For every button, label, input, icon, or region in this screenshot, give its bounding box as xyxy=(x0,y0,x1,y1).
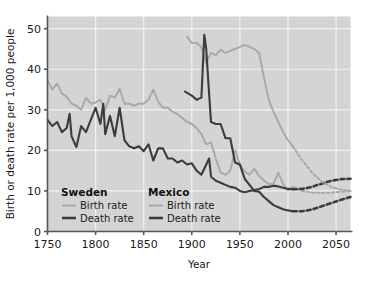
y-tick-label: 20 xyxy=(27,144,41,157)
y-tick-label: 30 xyxy=(27,104,41,117)
x-tick-label: 2050 xyxy=(322,238,350,251)
sweden-birth-rate-legend-label: Birth rate xyxy=(80,200,128,211)
figure-container: 010203040501750180018501900195020002050 … xyxy=(0,0,365,286)
y-tick-label: 10 xyxy=(27,185,41,198)
x-tick-label: 1750 xyxy=(34,238,62,251)
x-tick-label: 1850 xyxy=(130,238,158,251)
y-tick-label: 40 xyxy=(27,63,41,76)
x-tick-label: 2000 xyxy=(274,238,302,251)
x-tick-label: 1950 xyxy=(226,238,254,251)
mexico-legend-heading: Mexico xyxy=(148,186,189,198)
y-axis-title: Birth or death rate per 1,000 people xyxy=(4,29,16,220)
birth-death-rate-chart: 010203040501750180018501900195020002050 … xyxy=(0,0,365,286)
x-tick-label: 1800 xyxy=(82,238,110,251)
sweden-legend-heading: Sweden xyxy=(61,186,108,198)
x-axis-title: Year xyxy=(187,258,211,270)
y-tick-label: 50 xyxy=(27,23,41,36)
sweden-death-rate-legend-label: Death rate xyxy=(80,213,134,224)
x-tick-label: 1900 xyxy=(178,238,206,251)
mexico-birth-rate-legend-label: Birth rate xyxy=(167,200,215,211)
mexico-death-rate-legend-label: Death rate xyxy=(167,213,221,224)
